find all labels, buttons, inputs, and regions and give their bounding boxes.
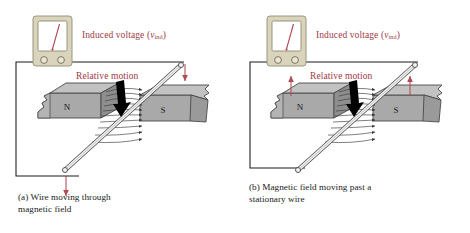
panel-b-caption: (b) Magnetic field moving past a station… <box>249 182 371 205</box>
north-pole-label: N <box>297 102 304 112</box>
relative-motion-label: Relative motion <box>76 72 138 82</box>
wire-end-bottom <box>63 168 68 173</box>
wire-end-top <box>179 63 184 68</box>
panel-wire-moving-through-magnetic-field: N S <box>0 0 235 233</box>
wire-end-bottom <box>296 168 301 173</box>
voltmeter[interactable] <box>267 16 306 66</box>
induced-voltage-label: Induced voltage (vind) <box>316 31 400 41</box>
south-pole-label: S <box>160 105 165 115</box>
induced-voltage-label: Induced voltage (vind) <box>82 31 166 41</box>
voltmeter-screen <box>272 21 301 51</box>
voltmeter-needle-pivot <box>51 49 53 51</box>
voltmeter-terminal-right[interactable] <box>292 57 299 64</box>
voltmeter[interactable] <box>33 16 72 66</box>
north-pole-label: N <box>64 102 71 112</box>
south-pole-label: S <box>393 105 398 115</box>
relative-motion-label: Relative motion <box>310 72 372 82</box>
voltmeter-terminal-left[interactable] <box>41 57 48 64</box>
voltmeter-needle-pivot <box>285 49 287 51</box>
voltmeter-screen <box>38 21 67 51</box>
voltmeter-terminal-left[interactable] <box>275 57 282 64</box>
voltmeter-terminal-right[interactable] <box>58 57 65 64</box>
wire-end-top <box>413 63 418 68</box>
panel-magnetic-field-moving-past-stationary-wire: N S <box>235 0 470 233</box>
panel-a-caption: (a) Wire moving through magnetic field <box>18 192 111 215</box>
wire-left-lead <box>16 62 79 176</box>
